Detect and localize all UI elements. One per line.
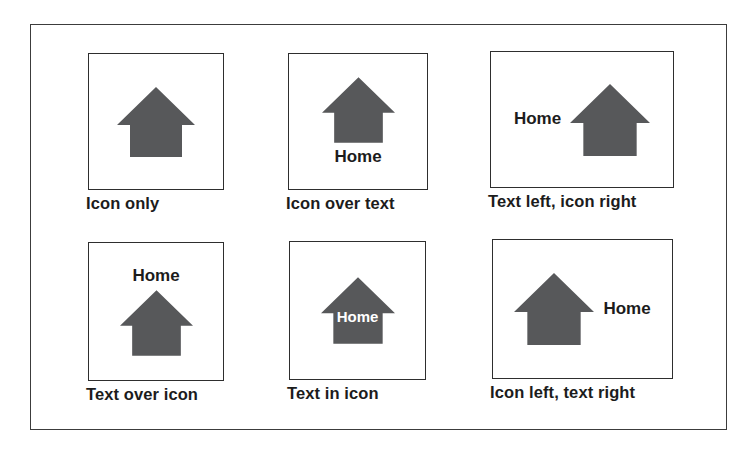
caption-icon-only: Icon only xyxy=(86,194,159,213)
caption-icon-over-text: Icon over text xyxy=(286,194,395,213)
home-icon xyxy=(570,84,650,156)
home-icon xyxy=(514,273,594,345)
home-icon xyxy=(120,290,193,356)
button-label: Home xyxy=(132,267,179,286)
button-label: Home xyxy=(514,110,561,129)
cell-text-in-icon: Home Text in icon xyxy=(289,241,426,380)
button-label: Home xyxy=(334,148,381,167)
home-icon: Home xyxy=(321,277,395,344)
home-icon xyxy=(322,77,395,143)
caption-text-left-icon-right: Text left, icon right xyxy=(488,192,636,211)
cell-icon-only: Icon only xyxy=(88,53,224,190)
cell-text-over-icon: Home Text over icon xyxy=(88,242,224,381)
caption-text-over-icon: Text over icon xyxy=(86,385,198,404)
caption-text-in-icon: Text in icon xyxy=(287,384,379,403)
button-sample-text-in-icon: Home xyxy=(289,241,426,380)
button-sample-icon-left-text-right: Home xyxy=(492,239,673,379)
button-label: Home xyxy=(603,300,650,319)
cell-icon-left-text-right: Home Icon left, text right xyxy=(492,239,673,379)
button-sample-text-left-icon-right: Home xyxy=(490,51,674,188)
button-sample-icon-only xyxy=(88,53,224,190)
button-sample-text-over-icon: Home xyxy=(88,242,224,381)
button-label-in-icon: Home xyxy=(337,307,379,324)
button-sample-icon-over-text: Home xyxy=(288,53,428,190)
figure-frame: Icon only Home Icon over text Home xyxy=(30,24,727,430)
cell-icon-over-text: Home Icon over text xyxy=(288,53,428,190)
caption-icon-left-text-right: Icon left, text right xyxy=(490,383,635,402)
cell-text-left-icon-right: Home Text left, icon right xyxy=(490,51,674,188)
figure-canvas: Icon only Home Icon over text Home xyxy=(0,0,754,452)
home-icon xyxy=(117,87,195,157)
